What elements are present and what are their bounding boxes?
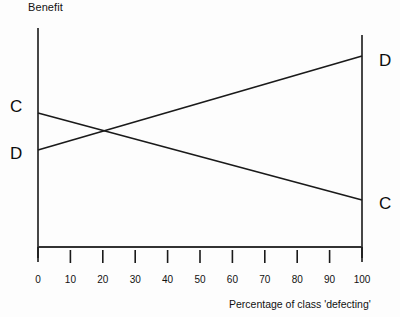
- x-tick-label-10: 10: [65, 274, 77, 285]
- series-line-c: [38, 113, 362, 200]
- plot-area: 0 10 20 30 40 50 60 70 80 90 100: [0, 0, 400, 317]
- x-tick-label-40: 40: [162, 274, 174, 285]
- series-label-d-right: D: [379, 52, 391, 69]
- x-tick-labels: 0 10 20 30 40 50 60 70 80 90 100: [35, 274, 371, 285]
- x-tick-label-100: 100: [354, 274, 371, 285]
- series-label-d-left: D: [10, 145, 22, 162]
- x-tick-label-0: 0: [35, 274, 41, 285]
- x-tick-label-50: 50: [194, 274, 206, 285]
- series-label-c-left: C: [10, 98, 22, 115]
- x-axis-ticks: [38, 247, 362, 263]
- series-label-c-right: C: [379, 195, 391, 212]
- chart-canvas: Benefit 0 10 20: [0, 0, 400, 317]
- series-line-d: [38, 56, 362, 150]
- x-tick-label-30: 30: [130, 274, 142, 285]
- x-tick-label-20: 20: [97, 274, 109, 285]
- x-axis-title: Percentage of class 'defecting': [229, 298, 371, 310]
- x-tick-label-60: 60: [227, 274, 239, 285]
- x-tick-label-80: 80: [292, 274, 304, 285]
- x-tick-label-90: 90: [324, 274, 336, 285]
- x-tick-label-70: 70: [259, 274, 271, 285]
